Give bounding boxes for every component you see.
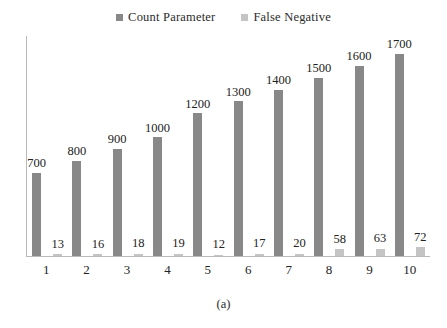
bar-count-parameter: 900 <box>113 149 122 256</box>
x-axis-tick-1: 1 <box>26 262 66 278</box>
legend-label-false-negative: False Negative <box>253 10 330 25</box>
bar-count-parameter: 1400 <box>274 90 283 256</box>
bar-value-label: 20 <box>293 237 306 250</box>
x-axis-tick-4: 4 <box>147 262 187 278</box>
bar-value-label: 63 <box>374 232 387 245</box>
bar-group: 130017 <box>228 36 268 256</box>
bar-value-label: 800 <box>68 145 87 158</box>
bar-false-negative: 58 <box>335 249 344 256</box>
bar-count-parameter: 1000 <box>153 137 162 256</box>
legend-entry-false-negative: False Negative <box>241 10 330 25</box>
x-axis-tick-3: 3 <box>107 262 147 278</box>
bar-value-label: 700 <box>27 157 46 170</box>
x-axis-tick-9: 9 <box>349 262 389 278</box>
x-axis-tick-8: 8 <box>309 262 349 278</box>
bar-false-negative: 18 <box>134 254 143 256</box>
x-axis-tick-5: 5 <box>188 262 228 278</box>
bar-count-parameter: 1600 <box>355 66 364 256</box>
bar-group: 140020 <box>269 36 309 256</box>
bar-count-parameter: 700 <box>32 173 41 256</box>
chart-legend: Count Parameter False Negative <box>0 10 447 25</box>
bar-value-label: 13 <box>51 238 64 251</box>
bar-count-parameter: 1500 <box>314 78 323 256</box>
bar-value-label: 17 <box>253 237 266 250</box>
bar-value-label: 72 <box>414 231 427 244</box>
bar-value-label: 1000 <box>145 122 170 135</box>
bar-groups: 7001380016900181000191200121300171400201… <box>27 36 430 256</box>
plot-area: 7001380016900181000191200121300171400201… <box>26 36 430 257</box>
bar-false-negative: 17 <box>255 254 264 256</box>
bar-count-parameter: 1700 <box>395 54 404 256</box>
legend-entry-count-parameter: Count Parameter <box>116 10 215 25</box>
x-axis-tick-10: 10 <box>390 262 430 278</box>
square-marker-dark-icon <box>116 14 123 21</box>
bar-group: 150058 <box>309 36 349 256</box>
bar-value-label: 1600 <box>347 50 372 63</box>
x-axis-tick-7: 7 <box>268 262 308 278</box>
bar-value-label: 1400 <box>266 74 291 87</box>
bar-false-negative: 72 <box>416 247 425 256</box>
x-axis-tick-6: 6 <box>228 262 268 278</box>
bar-false-negative: 63 <box>376 249 385 256</box>
bar-count-parameter: 800 <box>72 161 81 256</box>
bar-false-negative: 19 <box>174 254 183 256</box>
bar-false-negative: 13 <box>53 254 62 256</box>
bar-value-label: 1700 <box>387 38 412 51</box>
bar-count-parameter: 1200 <box>193 113 202 256</box>
x-axis-tick-2: 2 <box>66 262 106 278</box>
bar-value-label: 1500 <box>306 62 331 75</box>
bar-group: 170072 <box>390 36 430 256</box>
bar-value-label: 19 <box>172 237 185 250</box>
bar-value-label: 1200 <box>185 98 210 111</box>
bar-value-label: 900 <box>108 133 127 146</box>
bar-value-label: 18 <box>132 237 145 250</box>
bar-group: 70013 <box>27 36 67 256</box>
bar-count-parameter: 1300 <box>234 101 243 256</box>
x-axis-tick-labels: 12345678910 <box>26 262 430 278</box>
bar-value-label: 12 <box>213 238 226 251</box>
bar-false-negative: 20 <box>295 254 304 256</box>
bar-value-label: 58 <box>333 233 346 246</box>
bar-value-label: 1300 <box>226 86 251 99</box>
bar-group: 90018 <box>108 36 148 256</box>
bar-false-negative: 16 <box>93 254 102 256</box>
square-marker-light-icon <box>241 14 248 21</box>
bar-chart-figure: Count Parameter False Negative 700138001… <box>0 0 447 328</box>
bar-value-label: 16 <box>92 238 105 251</box>
bar-false-negative: 12 <box>214 255 223 257</box>
legend-label-count-parameter: Count Parameter <box>128 10 215 25</box>
bar-group: 80016 <box>67 36 107 256</box>
figure-caption: (a) <box>0 297 447 312</box>
bar-group: 120012 <box>188 36 228 256</box>
bar-group: 160063 <box>349 36 389 256</box>
bar-group: 100019 <box>148 36 188 256</box>
